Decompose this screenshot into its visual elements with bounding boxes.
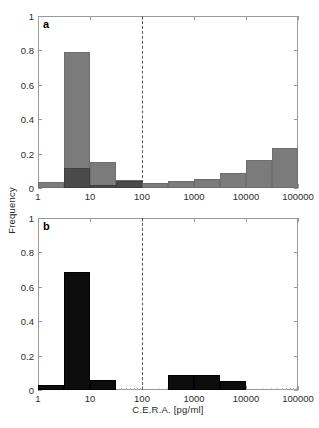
y-tick-right (294, 50, 298, 51)
y-tick (38, 119, 42, 120)
y-axis-label: Frequency (6, 176, 17, 246)
x-tick-minor (282, 388, 283, 391)
x-tick-minor (286, 388, 287, 391)
y-tick (38, 85, 42, 86)
y-tick (38, 50, 42, 51)
y-tick-label: 0.8 (21, 247, 34, 258)
x-tick-minor (126, 388, 127, 391)
y-tick-label: 1 (29, 213, 34, 224)
y-tick-label: 0.8 (21, 45, 34, 56)
figure-root: Frequency C.E.R.A. [pg/ml] a 00.20.40.60… (0, 0, 319, 428)
x-tick-label: 1 (35, 191, 40, 202)
x-tick-minor (134, 388, 135, 391)
histogram-bar (168, 375, 194, 390)
histogram-bar (168, 181, 194, 188)
y-tick-label: 0 (29, 183, 34, 194)
x-tick (298, 184, 299, 188)
y-tick-label: 0.2 (21, 350, 34, 361)
x-tick-top (246, 218, 247, 222)
histogram-bar (246, 160, 272, 188)
x-tick-top (90, 16, 91, 20)
x-tick-minor (262, 388, 263, 391)
x-tick-top (38, 218, 39, 222)
x-tick-top (298, 16, 299, 20)
x-tick-label: 100 (134, 191, 150, 202)
histogram-bar (90, 185, 116, 188)
histogram-bar (64, 168, 90, 188)
x-tick-minor (137, 388, 138, 391)
threshold-line (142, 218, 143, 390)
x-tick-minor (158, 388, 159, 391)
x-tick-minor (290, 388, 291, 391)
x-tick-label: 1000 (183, 393, 204, 404)
y-tick-label: 0.6 (21, 79, 34, 90)
y-tick-right (294, 252, 298, 253)
x-tick-label: 1000 (183, 191, 204, 202)
x-tick-top (90, 218, 91, 222)
x-tick-top (246, 16, 247, 20)
y-tick-right (294, 390, 298, 391)
y-tick-right (294, 287, 298, 288)
y-tick-right (294, 85, 298, 86)
y-tick-label: 0.4 (21, 316, 34, 327)
x-tick-label: 1 (35, 393, 40, 404)
x-tick-label: 10 (85, 191, 96, 202)
histogram-bar (116, 181, 142, 188)
histogram-bar (38, 182, 64, 188)
x-tick-label: 10000 (233, 191, 259, 202)
x-tick (246, 386, 247, 390)
x-tick-minor (277, 388, 278, 391)
x-tick-top (298, 218, 299, 222)
y-tick (38, 356, 42, 357)
histogram-bar (220, 173, 246, 188)
histogram-bar (220, 381, 246, 390)
y-tick (38, 321, 42, 322)
histogram-bar (90, 380, 116, 390)
histogram-bar (272, 148, 298, 188)
panel-a-letter: a (43, 18, 49, 30)
x-tick-label: 10 (85, 393, 96, 404)
x-tick-top (38, 16, 39, 20)
x-tick-top (194, 218, 195, 222)
y-tick-label: 0.2 (21, 148, 34, 159)
x-tick-label: 100000 (282, 191, 314, 202)
y-tick-right (294, 119, 298, 120)
y-tick-label: 0 (29, 385, 34, 396)
panel-b: b 00.20.40.60.81110100100010000100000 (38, 218, 298, 390)
x-axis-label: C.E.R.A. [pg/ml] (38, 404, 298, 415)
y-tick-label: 0.6 (21, 281, 34, 292)
x-tick-label: 10000 (233, 393, 259, 404)
x-tick-label: 100000 (282, 393, 314, 404)
x-tick-minor (293, 388, 294, 391)
threshold-line (142, 16, 143, 188)
histogram-bar (194, 179, 220, 188)
y-tick (38, 188, 42, 189)
y-tick-right (294, 321, 298, 322)
y-tick-right (294, 188, 298, 189)
y-tick (38, 252, 42, 253)
x-tick-minor (140, 388, 141, 391)
y-tick-right (294, 356, 298, 357)
panel-a: a 00.20.40.60.81110100100010000100000 (38, 16, 298, 188)
x-tick-minor (130, 388, 131, 391)
y-tick (38, 154, 42, 155)
x-tick-minor (121, 388, 122, 391)
y-tick (38, 390, 42, 391)
histogram-bar (142, 183, 168, 189)
y-tick-label: 0.4 (21, 114, 34, 125)
histogram-bar (64, 272, 90, 390)
y-tick-label: 1 (29, 11, 34, 22)
x-tick-minor (296, 388, 297, 391)
histogram-bar (194, 375, 220, 390)
x-tick-label: 100 (134, 393, 150, 404)
x-tick-minor (271, 388, 272, 391)
x-tick (298, 386, 299, 390)
panel-b-letter: b (43, 220, 50, 232)
histogram-bar (38, 385, 64, 390)
y-tick (38, 287, 42, 288)
x-tick-top (194, 16, 195, 20)
